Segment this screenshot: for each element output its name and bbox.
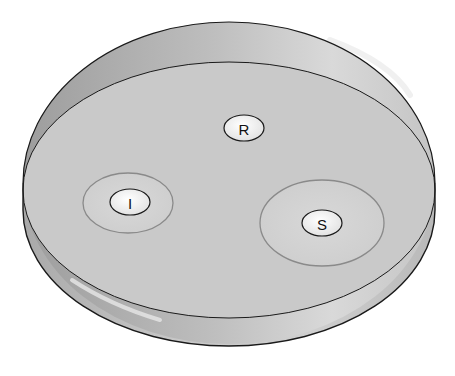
antibiotic-disk-intermediate: I: [110, 189, 150, 215]
disk-label-r: R: [239, 121, 250, 138]
agar-surface: [23, 62, 435, 318]
petri-dish-diagram: R I S: [0, 0, 455, 376]
antibiotic-disk-resistant: R: [224, 115, 264, 141]
disk-label-i: I: [128, 195, 132, 212]
disk-label-s: S: [317, 216, 327, 233]
antibiotic-disk-susceptible: S: [302, 210, 342, 236]
